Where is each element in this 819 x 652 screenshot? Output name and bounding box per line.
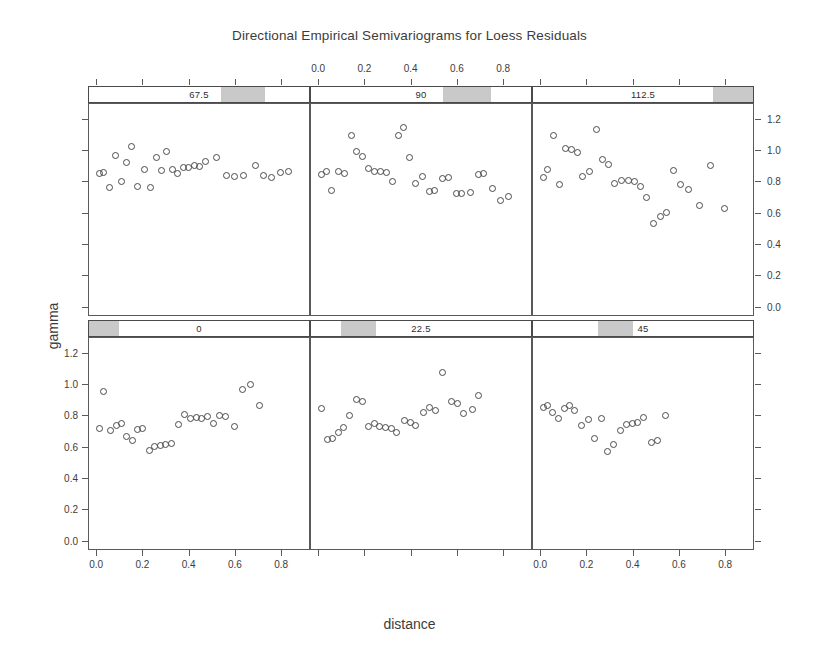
data-point [247, 381, 254, 388]
data-point [395, 132, 402, 139]
data-point [544, 166, 551, 173]
data-point [128, 143, 135, 150]
x-axis-label: distance [0, 616, 819, 632]
panel-strip-0: 0 [88, 320, 310, 337]
data-point [489, 185, 496, 192]
data-point [359, 398, 366, 405]
y-tick-right [755, 213, 761, 214]
data-point [341, 170, 348, 177]
data-point [134, 183, 141, 190]
y-tick-left [82, 275, 88, 276]
y-tick-right [755, 509, 761, 510]
y-tick-right [755, 275, 761, 276]
y-tick-label-right: 0.6 [767, 207, 781, 218]
x-tick-label-top: 0.6 [450, 63, 464, 74]
data-point [158, 167, 165, 174]
x-tick-bottom [540, 550, 541, 556]
y-tick-left [82, 244, 88, 245]
data-point [480, 170, 487, 177]
data-point [256, 402, 263, 409]
x-tick-bottom [364, 550, 365, 556]
data-point [118, 420, 125, 427]
data-point [285, 168, 292, 175]
data-point [239, 386, 246, 393]
data-point [460, 410, 467, 417]
data-point [96, 425, 103, 432]
data-point [637, 183, 644, 190]
strip-label: 0 [89, 321, 309, 336]
data-point [431, 187, 438, 194]
data-point [505, 193, 512, 200]
data-point [574, 149, 581, 156]
x-tick-label-top: 0.4 [404, 63, 418, 74]
data-point [540, 174, 547, 181]
data-point [223, 172, 230, 179]
x-tick-label-bottom: 0.8 [718, 559, 732, 570]
y-axis-label: gamma [45, 303, 61, 350]
data-point [591, 435, 598, 442]
x-tick-top [235, 79, 236, 85]
data-point [100, 169, 107, 176]
data-point [544, 402, 551, 409]
y-tick-left [82, 447, 88, 448]
x-tick-label-top: 0.2 [357, 63, 371, 74]
data-point [650, 220, 657, 227]
data-point [550, 132, 557, 139]
data-point [147, 184, 154, 191]
data-point [475, 392, 482, 399]
data-point [677, 181, 684, 188]
data-point [318, 405, 325, 412]
panel-strip-22.5: 22.5 [310, 320, 532, 337]
data-point [100, 388, 107, 395]
data-point [643, 194, 650, 201]
data-point [654, 437, 661, 444]
data-point [141, 166, 148, 173]
y-tick-right [755, 353, 761, 354]
y-tick-left [82, 509, 88, 510]
data-point [139, 425, 146, 432]
x-tick-bottom [725, 550, 726, 556]
chart-title: Directional Empirical Semivariograms for… [0, 28, 819, 43]
data-point [420, 409, 427, 416]
data-point [497, 197, 504, 204]
x-tick-label-top: 0.0 [311, 63, 325, 74]
x-tick-bottom [411, 550, 412, 556]
data-point [106, 184, 113, 191]
y-tick-left [82, 478, 88, 479]
x-tick-label-bottom: 0.6 [228, 559, 242, 570]
data-point [640, 414, 647, 421]
data-point [213, 154, 220, 161]
data-point [107, 427, 114, 434]
data-point [202, 158, 209, 165]
strip-label: 112.5 [533, 87, 753, 102]
data-point [329, 435, 336, 442]
data-point [412, 180, 419, 187]
data-point [346, 412, 353, 419]
x-tick-top [318, 79, 319, 85]
y-tick-left [82, 384, 88, 385]
data-point [419, 173, 426, 180]
data-point [174, 170, 181, 177]
data-point [598, 415, 605, 422]
data-point [432, 407, 439, 414]
y-tick-left [82, 181, 88, 182]
data-point [359, 153, 366, 160]
data-point [707, 162, 714, 169]
data-point [467, 189, 474, 196]
panel-90 [310, 103, 532, 316]
x-tick-top [364, 79, 365, 85]
x-tick-bottom [235, 550, 236, 556]
y-tick-left [82, 307, 88, 308]
y-tick-right [755, 119, 761, 120]
y-tick-label-right: 0.8 [767, 176, 781, 187]
panel-grid: 67.590112.5022.5450.00.20.40.60.80.00.20… [88, 86, 755, 550]
y-tick-label-left: 1.2 [40, 347, 78, 358]
x-tick-top [189, 79, 190, 85]
data-point [231, 423, 238, 430]
y-tick-right [755, 307, 761, 308]
x-tick-bottom [679, 550, 680, 556]
y-tick-right [755, 244, 761, 245]
x-tick-label-bottom: 0.8 [274, 559, 288, 570]
x-tick-top [281, 79, 282, 85]
data-point [412, 422, 419, 429]
